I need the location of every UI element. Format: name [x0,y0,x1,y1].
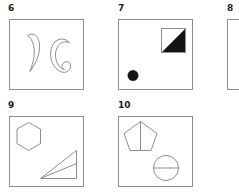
pentagon-shape [124,122,157,151]
panel-10-shapes [0,0,239,196]
divided-circle-shape [154,156,179,181]
worksheet-sheet: 6 7 8 9 [0,0,239,196]
